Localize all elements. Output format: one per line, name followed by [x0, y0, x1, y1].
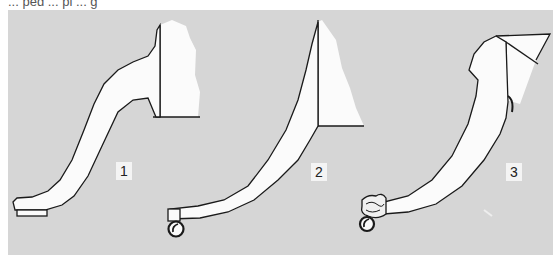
- leg-3-illustration: [360, 34, 550, 231]
- leg-illustrations: [0, 0, 559, 259]
- leg-1-illustration: [13, 20, 200, 216]
- label-1: 1: [116, 162, 132, 180]
- label-2: 2: [311, 163, 327, 181]
- scratch-mark: [484, 210, 492, 216]
- label-3: 3: [506, 163, 522, 181]
- leg-2-illustration: [168, 20, 364, 237]
